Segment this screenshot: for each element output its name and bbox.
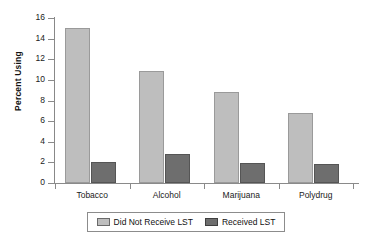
x-axis-tick — [279, 184, 280, 189]
legend-swatch-icon-dark — [205, 218, 218, 226]
y-axis-tick — [48, 121, 54, 122]
bar-alcohol-series-1 — [139, 71, 164, 183]
plot-area — [55, 18, 353, 183]
bar-polydrug-series-1 — [288, 113, 313, 183]
y-axis-tick-label: 8 — [26, 96, 45, 105]
bar-tobacco-series-2 — [91, 162, 116, 183]
x-axis-label-alcohol: Alcohol — [130, 190, 205, 200]
legend: Did Not Receive LST Received LST — [87, 212, 285, 232]
y-axis-tick-label: 6 — [26, 116, 45, 125]
y-axis-tick — [48, 80, 54, 81]
x-axis-tick — [130, 184, 131, 189]
y-axis-tick — [48, 183, 54, 184]
y-axis-title: Percent Using — [13, 39, 23, 123]
legend-label-received-lst: Received LST — [222, 217, 275, 227]
x-axis-label-polydrug: Polydrug — [279, 190, 354, 200]
y-axis-tick-label: 0 — [26, 178, 45, 187]
y-axis-tick-label: 2 — [26, 157, 45, 166]
bar-tobacco-series-1 — [65, 28, 90, 183]
x-axis-tick — [204, 184, 205, 189]
bar-marijuana-series-2 — [240, 163, 265, 183]
legend-entry-received-lst[interactable]: Received LST — [205, 217, 275, 227]
x-axis-label-marijuana: Marijuana — [204, 190, 279, 200]
y-axis-tick-label: 12 — [26, 54, 45, 63]
y-axis-tick — [48, 162, 54, 163]
y-axis-tick — [48, 142, 54, 143]
bar-polydrug-series-2 — [314, 164, 339, 183]
y-axis-tick — [48, 39, 54, 40]
x-axis-tick — [55, 184, 56, 189]
legend-swatch-icon-light — [97, 218, 110, 226]
x-axis-label-tobacco: Tobacco — [55, 190, 130, 200]
legend-label-did-not-receive-lst: Did Not Receive LST — [114, 217, 193, 227]
y-axis-tick — [48, 101, 54, 102]
y-axis-tick-label: 4 — [26, 137, 45, 146]
x-axis-tick — [353, 184, 354, 189]
legend-entry-did-not-receive-lst[interactable]: Did Not Receive LST — [97, 217, 193, 227]
y-axis-tick — [48, 18, 54, 19]
bar-marijuana-series-1 — [214, 92, 239, 183]
y-axis-tick-label: 16 — [26, 13, 45, 22]
bar-alcohol-series-2 — [165, 154, 190, 183]
y-axis-tick-label: 14 — [26, 34, 45, 43]
y-axis-tick-label: 10 — [26, 75, 45, 84]
bar-chart: Percent Using 0246810121416 TobaccoAlcoh… — [0, 0, 371, 246]
y-axis-tick — [48, 59, 54, 60]
